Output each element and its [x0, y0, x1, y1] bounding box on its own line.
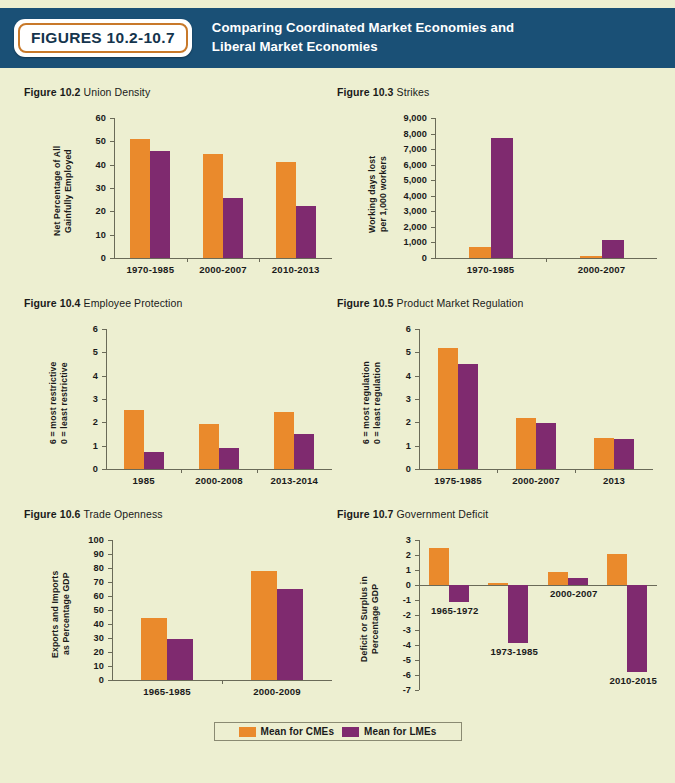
bar-lme: [277, 589, 303, 680]
y-tick-mark: [415, 352, 419, 353]
x-category-label: 2010-2015: [589, 675, 675, 686]
y-tick-label: 20: [24, 206, 106, 216]
y-tick-mark: [415, 446, 419, 447]
y-tick-label: -5: [337, 655, 411, 665]
bar-lme: [568, 578, 588, 585]
y-tick-mark: [415, 690, 419, 691]
y-tick-label: 5: [337, 347, 411, 357]
y-tick-label: 3: [337, 394, 411, 404]
y-tick-mark: [431, 165, 435, 166]
y-tick-mark: [415, 660, 419, 661]
bar-lme: [223, 198, 243, 258]
y-tick-label: -4: [337, 640, 411, 650]
y-tick-label: -2: [337, 610, 411, 620]
legend-item-cme: Mean for CMEs: [239, 726, 335, 737]
y-tick-mark: [415, 630, 419, 631]
y-tick-label: 9,000: [337, 113, 427, 123]
y-tick-mark: [415, 555, 419, 556]
page-header: FIGURES 10.2-10.7 Comparing Coordinated …: [0, 8, 675, 68]
x-category-label: 2010-2013: [244, 264, 347, 275]
figure-number: Figure 10.7: [337, 508, 394, 520]
x-axis-separator-tick: [187, 258, 188, 262]
x-axis-separator-tick: [497, 469, 498, 473]
bar-lme: [150, 151, 170, 258]
x-axis-separator-tick: [181, 469, 182, 473]
x-axis-separator-tick: [257, 469, 258, 473]
y-tick-mark: [431, 196, 435, 197]
bar-lme: [144, 452, 164, 469]
y-tick-mark: [110, 141, 114, 142]
figure-title: Figure 10.7 Government Deficit: [337, 508, 661, 520]
bar-lme: [508, 585, 528, 643]
plot-area: Net Percentage of All Gainfully Employed…: [24, 102, 336, 284]
bar-lme: [536, 423, 556, 469]
y-axis-line: [435, 118, 436, 258]
bar-cme: [516, 418, 536, 469]
y-tick-mark: [415, 675, 419, 676]
y-tick-label: 5: [24, 347, 98, 357]
bar-lme: [458, 364, 478, 469]
y-tick-label: 30: [24, 633, 104, 643]
y-axis-line: [112, 540, 113, 680]
y-tick-label: 30: [24, 183, 106, 193]
y-tick-mark: [415, 600, 419, 601]
figure-10-3: Figure 10.3 StrikesWorking days lost per…: [337, 86, 661, 284]
y-tick-label: 60: [24, 591, 104, 601]
bar-lme: [449, 585, 469, 602]
y-tick-label: 3,000: [337, 206, 427, 216]
y-tick-label: 100: [24, 535, 104, 545]
figure-subtitle: Employee Protection: [84, 297, 183, 309]
y-tick-label: 2: [337, 417, 411, 427]
figure-10-2: Figure 10.2 Union DensityNet Percentage …: [24, 86, 336, 284]
y-tick-label: 1: [337, 565, 411, 575]
figures-badge: FIGURES 10.2-10.7: [14, 19, 192, 57]
x-category-label: 1965-1972: [410, 605, 500, 616]
y-tick-mark: [415, 329, 419, 330]
figure-title: Figure 10.2 Union Density: [24, 86, 336, 98]
figure-subtitle: Strikes: [397, 86, 430, 98]
y-tick-mark: [431, 118, 435, 119]
y-tick-label: 0: [24, 253, 106, 263]
x-axis-line: [106, 469, 332, 470]
y-axis-line: [419, 329, 420, 469]
y-tick-label: 6: [337, 324, 411, 334]
figure-10-5: Figure 10.5 Product Market Regulation6 =…: [337, 297, 657, 495]
y-tick-mark: [102, 329, 106, 330]
y-tick-mark: [431, 149, 435, 150]
plot-area: Deficit or Surplus in Percentage GDP-7-6…: [337, 524, 661, 716]
y-tick-label: 2: [337, 550, 411, 560]
y-tick-mark: [431, 227, 435, 228]
bar-cme: [548, 572, 568, 586]
y-tick-mark: [110, 188, 114, 189]
y-tick-label: 0: [337, 253, 427, 263]
y-tick-mark: [415, 540, 419, 541]
y-tick-mark: [102, 376, 106, 377]
y-tick-label: 50: [24, 136, 106, 146]
bar-cme: [488, 583, 508, 585]
legend: Mean for CMEs Mean for LMEs: [214, 722, 462, 741]
y-tick-mark: [108, 540, 112, 541]
figure-title: Figure 10.4 Employee Protection: [24, 297, 336, 309]
y-tick-label: 70: [24, 577, 104, 587]
page-title: Comparing Coordinated Market Economies a…: [212, 19, 514, 56]
y-tick-label: 4,000: [337, 191, 427, 201]
y-tick-mark: [102, 399, 106, 400]
y-tick-mark: [108, 638, 112, 639]
bar-cme: [199, 424, 219, 470]
y-tick-mark: [431, 211, 435, 212]
y-tick-label: 4: [24, 371, 98, 381]
y-tick-mark: [108, 554, 112, 555]
y-tick-label: 7,000: [337, 144, 427, 154]
y-tick-label: 0: [24, 464, 98, 474]
x-axis-separator-tick: [222, 680, 223, 684]
y-tick-label: 6,000: [337, 160, 427, 170]
y-tick-label: 6: [24, 324, 98, 334]
figure-subtitle: Union Density: [84, 86, 151, 98]
figure-number: Figure 10.2: [24, 86, 81, 98]
y-tick-label: 2: [24, 417, 98, 427]
bar-lme: [627, 585, 647, 672]
bar-cme: [429, 548, 449, 586]
y-tick-mark: [110, 235, 114, 236]
page-title-line-2: Liberal Market Economies: [212, 38, 514, 57]
y-tick-mark: [415, 422, 419, 423]
